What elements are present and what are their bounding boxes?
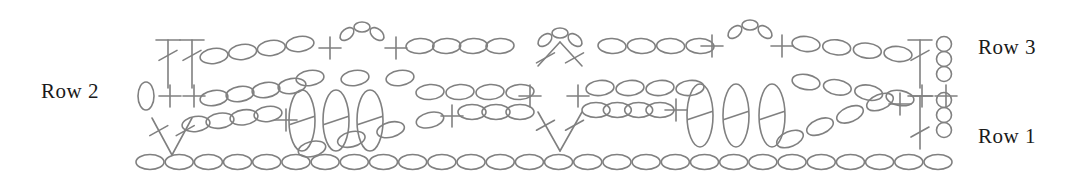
chain-stitch-symbol — [615, 79, 644, 97]
chain-stitch-symbol — [199, 47, 229, 66]
foundation-chain-stitch — [545, 155, 573, 170]
loop-stitch-crossbar — [724, 112, 748, 120]
turning-chain-symbol — [937, 123, 952, 138]
chain-stitch-symbol — [791, 72, 821, 91]
cluster-crossbar — [536, 53, 554, 63]
foundation-chain-stitch — [399, 155, 427, 170]
chain-stitch-symbol — [256, 39, 286, 58]
chain-stitch-symbol — [416, 84, 445, 101]
chain-stitch-symbol — [406, 38, 435, 54]
foundation-chain-stitch — [369, 155, 397, 170]
chain-stitch-symbol — [822, 38, 851, 56]
loop-stitch-crossbar — [324, 117, 348, 125]
chain-stitch-symbol — [804, 114, 836, 139]
foundation-chain-stitch — [720, 155, 748, 170]
row-label-row3: Row 3 — [978, 35, 1036, 60]
cluster-crossbar — [566, 53, 584, 63]
crochet-stitch-chart — [0, 0, 1073, 189]
chain-stitch-symbol — [446, 84, 475, 101]
diagram-canvas: Row 2 Row 3 Row 1 — [0, 0, 1073, 189]
turning-chain-symbol — [937, 93, 952, 108]
chain-stitch-symbol — [486, 38, 515, 54]
slip-stitch-symbol — [138, 82, 154, 110]
chain-stitch-symbol — [277, 76, 307, 95]
foundation-chain-stitch — [165, 155, 193, 170]
cluster-leg — [538, 112, 560, 151]
foundation-chain-stitch — [136, 155, 164, 170]
foundation-chain-stitch — [311, 155, 339, 170]
loop-stitch-crossbar — [760, 112, 784, 120]
foundation-chain-stitch — [836, 155, 864, 170]
foundation-chain-stitch — [632, 155, 660, 170]
chain-stitch-symbol — [853, 42, 882, 60]
cluster-crossbar — [536, 120, 554, 130]
foundation-chain-stitch — [486, 155, 514, 170]
chain-stitch-symbol — [822, 78, 852, 97]
chain-stitch-symbol — [225, 84, 255, 103]
chain-stitch-symbol — [656, 38, 685, 54]
chain-stitch-symbol — [854, 83, 884, 102]
chain-stitch-symbol — [598, 38, 627, 54]
chain-stitch-symbol — [552, 28, 568, 38]
foundation-chain-stitch — [866, 155, 894, 170]
chain-stitch-symbol — [297, 138, 328, 159]
chain-stitch-symbol — [742, 20, 758, 30]
turning-chain-symbol — [937, 52, 952, 67]
chain-stitch-symbol — [883, 45, 912, 63]
chain-stitch-symbol — [476, 84, 505, 101]
foundation-chain-stitch — [194, 155, 222, 170]
cluster-leg — [560, 112, 582, 151]
chain-stitch-symbol — [585, 79, 614, 97]
foundation-chain-stitch — [253, 155, 281, 170]
foundation-chain-stitch — [340, 155, 368, 170]
chain-stitch-symbol — [415, 109, 446, 130]
cluster-crossbar — [566, 120, 584, 130]
loop-stitch-crossbar — [358, 117, 382, 125]
foundation-chain-stitch — [661, 155, 689, 170]
chain-stitch-symbol — [375, 119, 406, 140]
chain-stitch-symbol — [432, 38, 461, 54]
chain-stitch-symbol — [385, 69, 415, 88]
cluster-leg — [152, 118, 172, 155]
chain-stitch-symbol — [295, 69, 325, 88]
chain-stitch-symbol — [774, 127, 806, 152]
foundation-chain-stitch — [603, 155, 631, 170]
chain-stitch-symbol — [354, 22, 370, 32]
chain-stitch-symbol — [251, 80, 281, 99]
foundation-chain-stitch — [428, 155, 456, 170]
chain-stitch-symbol — [199, 88, 229, 107]
chain-stitch-symbol — [228, 43, 258, 62]
chain-stitch-symbol — [627, 38, 656, 54]
chain-stitch-symbol — [459, 38, 488, 54]
foundation-chain-stitch — [457, 155, 485, 170]
chain-stitch-symbol — [791, 35, 820, 53]
foundation-chain-stitch — [574, 155, 602, 170]
loop-stitch-crossbar — [688, 112, 712, 120]
chain-stitch-symbol — [336, 129, 367, 150]
turning-chain-symbol — [937, 108, 952, 123]
foundation-chain-stitch — [807, 155, 835, 170]
foundation-chain-stitch — [691, 155, 719, 170]
row-label-row2: Row 2 — [41, 79, 99, 104]
row-label-row1: Row 1 — [978, 124, 1036, 149]
turning-chain-symbol — [937, 37, 952, 52]
foundation-chain-stitch — [778, 155, 806, 170]
foundation-chain-stitch — [895, 155, 923, 170]
foundation-chain-stitch — [224, 155, 252, 170]
turning-chain-symbol — [937, 67, 952, 82]
chain-stitch-symbol — [285, 35, 315, 54]
foundation-chain-stitch — [924, 155, 952, 170]
chain-stitch-symbol — [645, 79, 674, 97]
foundation-chain-stitch — [749, 155, 777, 170]
cluster-crossbar — [150, 126, 168, 136]
chain-stitch-symbol — [834, 102, 866, 127]
foundation-chain-stitch — [515, 155, 543, 170]
chain-stitch-symbol — [340, 69, 370, 88]
